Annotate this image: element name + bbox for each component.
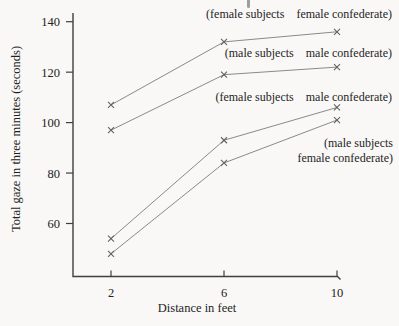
x-tick-label: 10 <box>331 286 344 300</box>
series-label-male-female: (male subjects female confederate) <box>297 136 393 166</box>
series-label-female-female: (female subjectsfemale confederate) <box>206 7 392 21</box>
series-label-subjects-part: (male subjects <box>297 136 393 151</box>
series-label-subjects-part: (female subjects <box>215 90 293 104</box>
y-tick-label: 80 <box>48 167 61 181</box>
series-label-male-male: (male subjectsmale confederate) <box>225 46 392 60</box>
series-label-confederate-part: male confederate) <box>306 46 392 60</box>
x-tick-label: 6 <box>221 286 227 300</box>
series-label-subjects-part: (female subjects <box>206 7 284 21</box>
x-tick-label: 2 <box>108 286 114 300</box>
series-line <box>111 107 337 238</box>
y-tick-label: 100 <box>41 116 60 130</box>
y-tick-label: 140 <box>41 15 60 29</box>
chart-page: 60801001201402610 (female subjectsfemale… <box>0 0 399 326</box>
x-axis-title: Distance in feet <box>97 301 297 316</box>
series-label-confederate-part: female confederate) <box>297 151 393 166</box>
y-tick-label: 60 <box>48 217 61 231</box>
series-label-confederate-part: female confederate) <box>296 7 392 21</box>
series-label-female-male: (female subjectsmale confederate) <box>215 90 392 104</box>
series-label-confederate-part: male confederate) <box>306 90 392 104</box>
y-tick-label: 120 <box>41 66 60 80</box>
series-label-subjects-part: (male subjects <box>225 46 294 60</box>
y-axis-title: Total gaze in three minutes (seconds) <box>9 46 24 232</box>
